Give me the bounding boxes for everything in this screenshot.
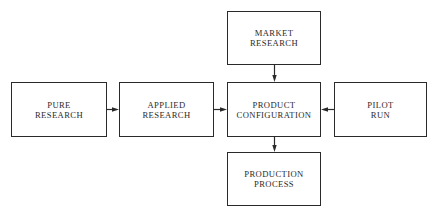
arrow-pure-to-applied bbox=[107, 107, 119, 111]
connector-arrows bbox=[0, 0, 434, 213]
arrow-market-to-product bbox=[272, 65, 276, 82]
arrow-product-to-production bbox=[272, 137, 276, 152]
arrow-applied-to-product bbox=[214, 107, 227, 111]
arrow-pilot-to-product bbox=[321, 107, 334, 111]
